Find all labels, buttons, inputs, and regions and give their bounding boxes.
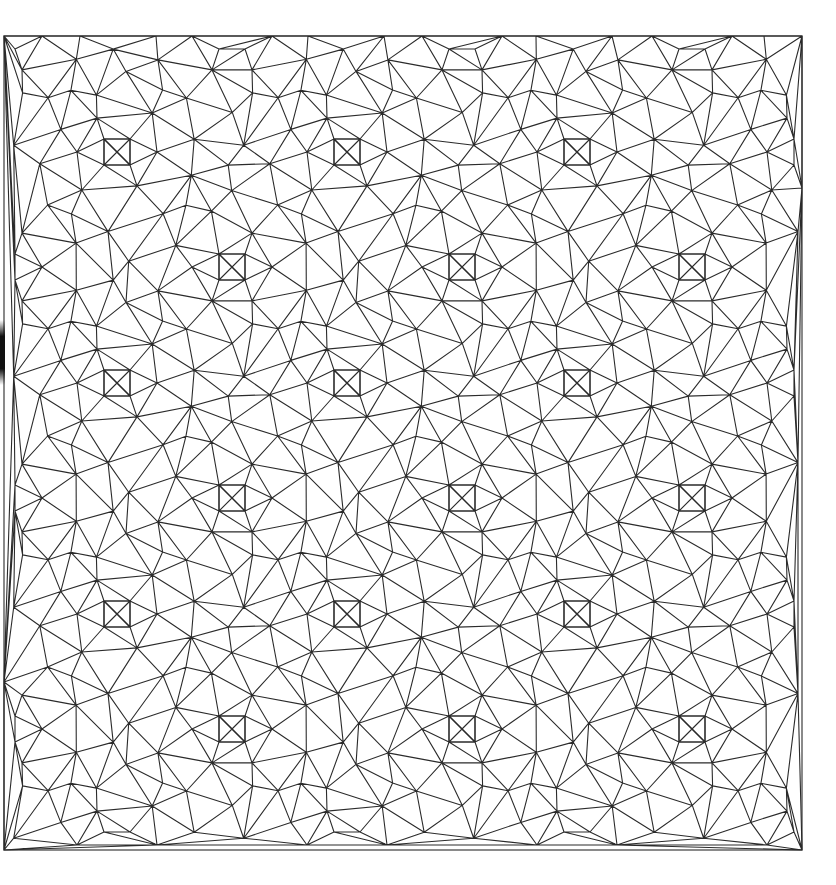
square-defect: [104, 370, 130, 396]
square-defect: [564, 139, 590, 165]
square-defect: [564, 370, 590, 396]
square-defect: [219, 485, 245, 511]
square-defect: [449, 485, 475, 511]
square-defect: [219, 716, 245, 742]
square-defect: [449, 254, 475, 280]
square-defect: [219, 254, 245, 280]
square-defect: [679, 254, 705, 280]
square-defect: [679, 716, 705, 742]
square-defect: [104, 601, 130, 627]
square-defect: [449, 716, 475, 742]
triangular-mesh-diagram: [0, 0, 836, 885]
square-defect: [104, 139, 130, 165]
square-defect: [334, 601, 360, 627]
square-defect: [334, 139, 360, 165]
square-defect: [564, 601, 590, 627]
square-defect: [679, 485, 705, 511]
square-defect: [334, 370, 360, 396]
scan-shadow: [0, 320, 5, 385]
